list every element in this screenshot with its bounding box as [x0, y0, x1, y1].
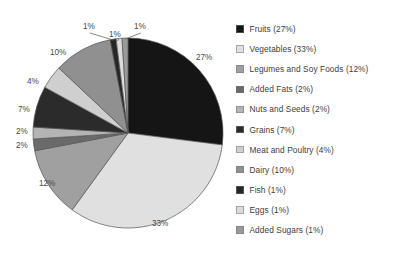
legend-swatch-icon: [236, 45, 244, 53]
pie-slices: [33, 38, 223, 228]
legend-swatch-icon: [236, 106, 244, 114]
legend-item[interactable]: Vegetables (33%): [236, 39, 398, 59]
slice-percent-label: 1%: [83, 22, 95, 31]
legend-swatch-icon: [236, 126, 244, 134]
legend-item-label: Eggs (1%): [250, 205, 289, 215]
slice-percent-label: 4%: [27, 77, 39, 86]
legend-item[interactable]: Grains (7%): [236, 119, 398, 139]
legend-item[interactable]: Dairy (10%): [236, 160, 398, 180]
legend-item-label: Legumes and Soy Foods (12%): [250, 64, 369, 74]
pie-chart: 27%33%12%2%2%7%4%10%1%1%1%: [0, 0, 235, 256]
legend-item-label: Nuts and Seeds (2%): [250, 104, 330, 114]
legend-item-label: Dairy (10%): [250, 165, 295, 175]
pie-chart-svg: 27%33%12%2%2%7%4%10%1%1%1%: [0, 0, 235, 256]
legend-swatch-icon: [236, 206, 244, 214]
slice-percent-label: 1%: [109, 30, 121, 39]
legend-swatch-icon: [236, 146, 244, 154]
legend-item[interactable]: Meat and Poultry (4%): [236, 140, 398, 160]
legend-item[interactable]: Eggs (1%): [236, 200, 398, 220]
legend-item-label: Meat and Poultry (4%): [250, 145, 334, 155]
legend-item-label: Grains (7%): [250, 125, 295, 135]
legend-item-label: Fish (1%): [250, 185, 286, 195]
slice-percent-label: 1%: [134, 22, 146, 31]
slice-percent-label: 2%: [16, 141, 28, 150]
legend-swatch-icon: [236, 86, 244, 94]
slice-percent-label: 33%: [152, 219, 168, 228]
legend-item[interactable]: Fish (1%): [236, 180, 398, 200]
legend-swatch-icon: [236, 65, 244, 73]
legend-item-label: Vegetables (33%): [250, 44, 317, 54]
legend-item[interactable]: Added Fats (2%): [236, 79, 398, 99]
slice-percent-label: 12%: [39, 179, 55, 188]
legend-item-label: Added Sugars (1%): [250, 225, 324, 235]
legend-item-label: Added Fats (2%): [250, 84, 314, 94]
legend-item[interactable]: Added Sugars (1%): [236, 220, 398, 240]
slice-percent-label: 10%: [50, 48, 66, 57]
slice-percent-label: 2%: [16, 127, 28, 136]
legend-swatch-icon: [236, 226, 244, 234]
slice-percent-label: 27%: [196, 53, 212, 62]
legend-item[interactable]: Legumes and Soy Foods (12%): [236, 59, 398, 79]
chart-legend: Fruits (27%)Vegetables (33%)Legumes and …: [236, 19, 398, 240]
legend-item-label: Fruits (27%): [250, 24, 296, 34]
slice-percent-label: 7%: [18, 105, 30, 114]
legend-swatch-icon: [236, 186, 244, 194]
legend-swatch-icon: [236, 25, 244, 33]
legend-item[interactable]: Fruits (27%): [236, 19, 398, 39]
legend-item[interactable]: Nuts and Seeds (2%): [236, 99, 398, 119]
chart-page: 27%33%12%2%2%7%4%10%1%1%1% Fruits (27%)V…: [0, 0, 398, 256]
legend-swatch-icon: [236, 166, 244, 174]
